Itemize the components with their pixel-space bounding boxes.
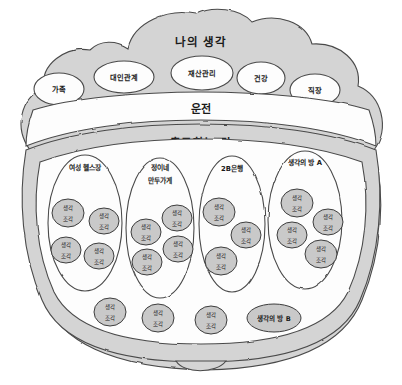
pod-dumpling-shop[interactable]: 정이네 만두가게 생각 조각 생각 조각 생각 조각 xyxy=(126,158,194,298)
thought-room-b[interactable]: 생각의 방 B xyxy=(247,304,301,332)
thought-fragment[interactable]: 생각 조각 xyxy=(305,240,337,268)
thought-fragment[interactable]: 생각 조각 xyxy=(205,247,237,275)
thought-fragment[interactable]: 생각 조각 xyxy=(195,306,227,334)
thought-fragment[interactable]: 생각 조각 xyxy=(132,249,162,275)
thought-fragment[interactable]: 생각 조각 xyxy=(131,219,161,245)
topic-oval-relationships[interactable]: 대인관계 xyxy=(94,61,154,93)
thought-fragment[interactable]: 생각 조각 xyxy=(313,209,343,235)
thought-fragment[interactable]: 생각 조각 xyxy=(52,199,84,227)
pod-thought-room-a[interactable]: 생각의 방 A 생각 조각 생각 조각 생각 조각 xyxy=(268,151,343,289)
thought-fragment[interactable]: 생각 조각 xyxy=(89,208,119,234)
topic-oval-asset-management[interactable]: 재산관리 xyxy=(171,56,233,90)
thought-fragment[interactable]: 생각 조각 xyxy=(203,198,235,226)
thought-fragment[interactable]: 생각 조각 xyxy=(162,205,192,231)
thought-map-diagram: 나의 생각 가족 대인관계 재산관리 건강 직장 xyxy=(0,0,402,385)
thought-fragment[interactable]: 생각 조각 xyxy=(281,189,313,217)
thought-fragment[interactable]: 생각 조각 xyxy=(231,222,261,248)
thought-fragment[interactable]: 생각 조각 xyxy=(51,237,81,263)
thought-fragment[interactable]: 생각 조각 xyxy=(84,243,114,269)
topic-oval-health[interactable]: 건강 xyxy=(237,62,285,94)
thought-fragment[interactable]: 생각 조각 xyxy=(277,222,307,248)
thought-fragment[interactable]: 생각 조각 xyxy=(142,304,174,332)
pod-womens-gym[interactable]: 여성 헬스장 생각 조각 생각 조각 생각 조각 xyxy=(48,155,122,291)
thought-fragment[interactable]: 생각 조각 xyxy=(163,236,193,262)
thought-fragment[interactable]: 생각 조각 xyxy=(94,298,126,326)
pod-bank[interactable]: 2B은행 생각 조각 생각 조각 생각 조각 xyxy=(199,156,265,292)
thought-map-canvas: 나의 생각 가족 대인관계 재산관리 건강 직장 xyxy=(0,0,402,385)
